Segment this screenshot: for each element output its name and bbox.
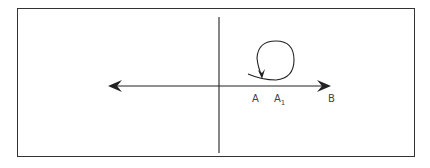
label-b: B (328, 94, 335, 104)
label-a1: A1 (274, 94, 285, 107)
label-a1-subscript: 1 (281, 99, 285, 107)
label-a1-base: A (274, 93, 281, 104)
label-a: A (252, 94, 259, 104)
diagram-canvas (0, 0, 430, 168)
rotation-loop (248, 41, 294, 80)
